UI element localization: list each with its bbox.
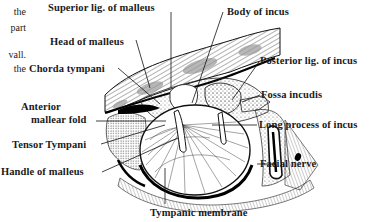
- label-fossa-incudis: Fossa incudis: [261, 89, 322, 101]
- label-tensor-tympani: Tensor Tympani: [12, 139, 86, 151]
- label-head-of-malleus: Head of malleus: [50, 36, 124, 48]
- label-anterior-mallear-fold-line1: Anterior: [21, 101, 61, 113]
- label-body-of-incus: Body of incus: [227, 6, 289, 18]
- label-long-process-incus: Long process of incus: [259, 119, 357, 131]
- label-handle-of-malleus: Handle of malleus: [1, 166, 84, 178]
- label-posterior-lig-incus: Posterior lig. of incus: [260, 55, 357, 67]
- label-tympanic-membrane: Tympanic membrane: [150, 207, 247, 219]
- label-chorda-tympani: Chorda tympani: [29, 63, 105, 75]
- label-facial-nerve: Facial nerve: [260, 158, 316, 170]
- label-superior-lig-malleus: Superior lig. of malleus: [48, 2, 155, 14]
- label-anterior-mallear-fold-line2: mallear fold: [31, 114, 87, 126]
